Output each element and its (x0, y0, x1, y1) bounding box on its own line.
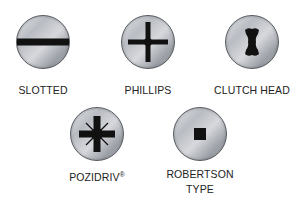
phillips-label: PHILLIPS (93, 83, 203, 98)
pozidriv-label: POZIDRIV® (42, 167, 152, 185)
pozidriv-drive-icon (70, 107, 124, 161)
pozidriv-label-text: POZIDRIV (69, 171, 119, 183)
robertson-label-line1: ROBERTSON (145, 167, 255, 182)
clutch-head-label: CLUTCH HEAD (197, 83, 306, 98)
robertson-drive-icon (173, 107, 227, 161)
slotted-label: SLOTTED (0, 83, 98, 98)
registered-mark: ® (120, 171, 125, 178)
robertson-label: ROBERTSON TYPE (145, 167, 255, 197)
phillips-drive-icon (121, 15, 175, 69)
clutch-head-drive-icon (225, 15, 279, 69)
robertson-label-line2: TYPE (145, 182, 255, 197)
slotted-drive-icon (16, 15, 70, 69)
